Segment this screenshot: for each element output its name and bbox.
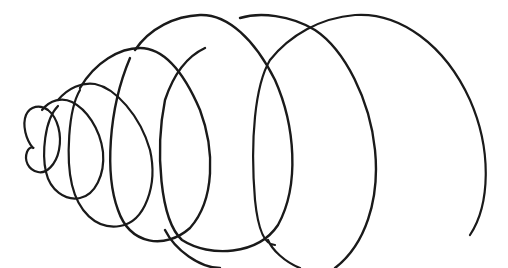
- coil-loop-1: [24, 107, 60, 173]
- coil-loop-4: [80, 48, 210, 241]
- coil-loop-3: [58, 84, 152, 227]
- spiral-drawing: [0, 0, 508, 268]
- coil-loop-5: [135, 15, 292, 251]
- spiral-sketch-canvas: [0, 0, 508, 268]
- coil-loop-7: [253, 15, 486, 268]
